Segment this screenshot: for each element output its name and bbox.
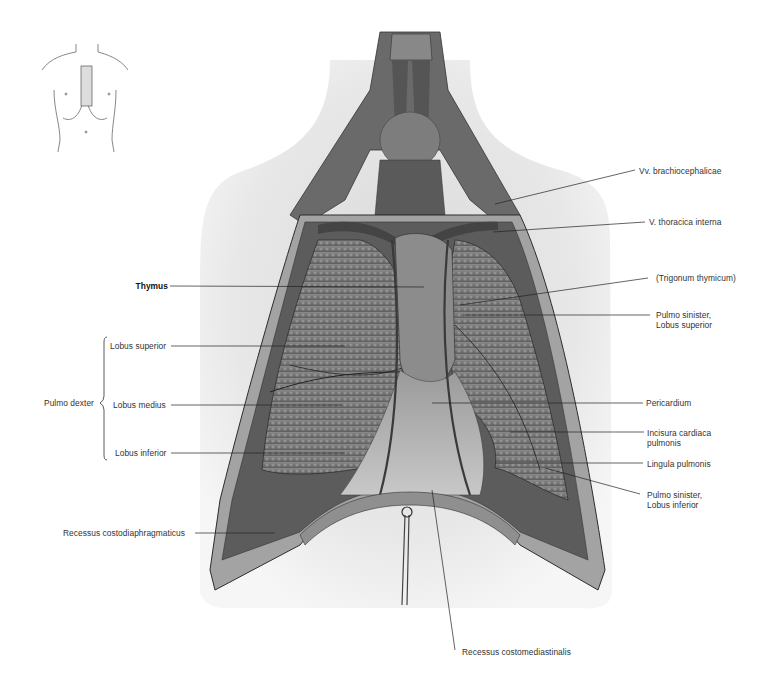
label-line-1: Pulmo sinister, [647, 490, 702, 500]
label-line-2: pulmonis [647, 438, 711, 448]
label-pulmo-sinister-lobus-superior: Pulmo sinister, Lobus superior [656, 310, 712, 330]
label-lingula-pulmonis: Lingula pulmonis [647, 459, 711, 469]
label-vv-brachiocephalicae: Vv. brachiocephalicae [639, 166, 721, 176]
label-pulmo-dexter: Pulmo dexter [44, 398, 94, 408]
pulmo-dexter-brace [100, 337, 107, 460]
label-recessus-costodiaphragmaticus: Recessus costodiaphragmaticus [63, 528, 185, 538]
label-line-2: Lobus inferior [647, 500, 702, 510]
label-line-2: Lobus superior [656, 320, 712, 330]
label-line-1: Incisura cardiaca [647, 428, 711, 438]
label-incisura-cardiaca-pulmonis: Incisura cardiaca pulmonis [647, 428, 711, 448]
label-lobus-inferior-dexter: Lobus inferior [115, 448, 166, 458]
label-lobus-medius: Lobus medius [113, 400, 166, 410]
label-lobus-superior-dexter: Lobus superior [110, 341, 166, 351]
label-line-1: Pulmo sinister, [656, 310, 712, 320]
label-pericardium: Pericardium [646, 398, 691, 408]
label-pulmo-sinister-lobus-inferior: Pulmo sinister, Lobus inferior [647, 490, 702, 510]
torso-outline-icon [42, 44, 128, 152]
label-trigonum-thymicum: (Trigonum thymicum) [656, 273, 736, 283]
anatomy-figure: Thymus Pulmo dexter Lobus superior Lobus… [0, 0, 774, 693]
label-thymus: Thymus [118, 281, 168, 291]
label-v-thoracica-interna: V. thoracica interna [649, 217, 721, 227]
label-recessus-costomediastinalis: Recessus costomediastinalis [462, 647, 571, 657]
